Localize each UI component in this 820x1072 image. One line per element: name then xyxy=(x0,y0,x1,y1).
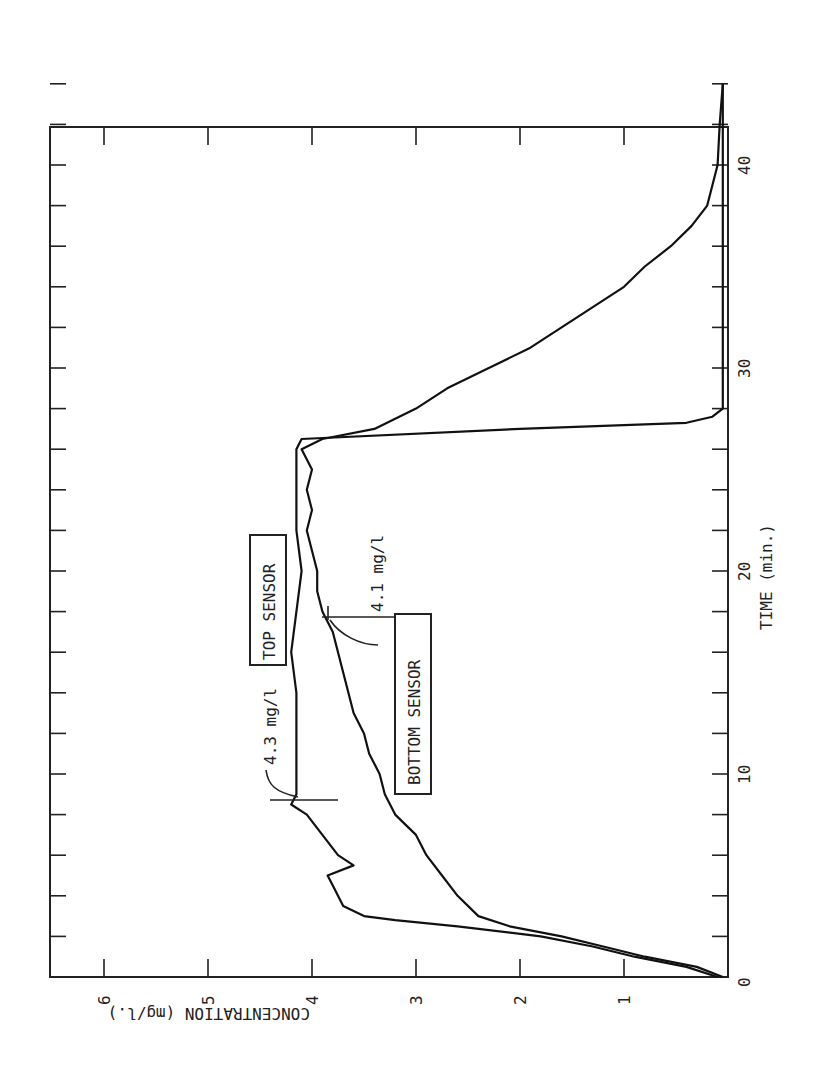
top-sensor-label: TOP SENSOR xyxy=(260,563,279,660)
time-tick-label: 10 xyxy=(735,765,754,784)
time-tick-label: 30 xyxy=(735,359,754,378)
conc-tick-label: 3 xyxy=(407,995,426,1005)
time-tick-label: 0 xyxy=(735,977,754,987)
bottom-sensor-series xyxy=(302,84,723,977)
ann-top-value: 4.3 mg/l xyxy=(261,688,280,765)
top-sensor-series xyxy=(291,84,723,977)
concentration-axis-title: CONCENTRATION (mg/l.) xyxy=(108,1004,310,1023)
concentration-time-chart: 010203040123456 TOP SENSOR BOTTOM SENSOR… xyxy=(0,0,820,1072)
top-sensor-legend-box: TOP SENSOR xyxy=(250,535,286,665)
axis-ticks xyxy=(50,84,728,977)
conc-tick-label: 4 xyxy=(303,995,322,1005)
scan-speck xyxy=(500,40,530,50)
plot-frame xyxy=(50,127,728,977)
conc-tick-label: 5 xyxy=(199,995,218,1005)
time-tick-label: 40 xyxy=(735,156,754,175)
conc-tick-label: 2 xyxy=(511,995,530,1005)
time-tick-label: 20 xyxy=(735,562,754,581)
ann-bottom-arrow xyxy=(330,620,378,645)
bottom-sensor-label: BOTTOM SENSOR xyxy=(405,659,424,785)
bottom-sensor-legend-box: BOTTOM SENSOR xyxy=(395,614,431,794)
conc-tick-label: 1 xyxy=(615,995,634,1005)
ann-top-arrow xyxy=(266,770,298,797)
ann-bottom-value: 4.1 mg/l xyxy=(368,535,387,612)
conc-tick-label: 6 xyxy=(95,995,114,1005)
axis-tick-labels: 010203040123456 xyxy=(95,156,754,1005)
time-axis-title: TIME (min.) xyxy=(757,524,776,630)
